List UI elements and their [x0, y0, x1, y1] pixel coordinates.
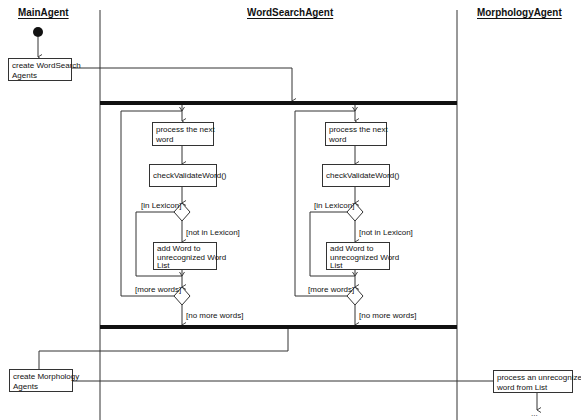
activity-create-wordsearch-agents: create WordSearch Agents: [8, 58, 72, 81]
activity-label: List: [330, 262, 386, 271]
guard-not-in-lexicon-left: [not in Lexicon]: [186, 228, 240, 238]
swimlane-title-wordsearch: WordSearchAgent: [247, 6, 333, 18]
join-bar: [100, 325, 457, 329]
activity-label: Agents: [13, 382, 69, 392]
activity-label: process an unrecognized: [497, 373, 569, 383]
activity-check-validate-word-right: checkValidateWord(): [322, 164, 390, 187]
activity-add-word-left: add Word to unrecognized Word List: [153, 242, 217, 270]
fork-bar: [100, 101, 457, 105]
activity-label: Agents: [12, 71, 68, 81]
activity-label: process the next: [156, 125, 210, 135]
activity-process-next-word-left: process the next word: [152, 122, 214, 146]
guard-more-words-right: [more words]: [308, 285, 354, 295]
activity-label: create Morphology: [13, 372, 69, 382]
guard-in-lexicon-left: [in Lexicon]: [141, 201, 181, 211]
activity-label: word: [156, 135, 210, 145]
activity-label: checkValidateWord(): [326, 171, 386, 181]
activity-label: process the next: [329, 125, 383, 135]
guard-more-words-left: [more words]: [135, 285, 181, 295]
activity-add-word-right: add Word to unrecognized Word List: [326, 242, 390, 270]
activity-create-morphology-agents: create Morphology Agents: [9, 369, 73, 392]
diagram-lines: [0, 0, 581, 420]
activity-label: word from List: [497, 383, 569, 393]
swimlane-title-main: MainAgent: [18, 6, 69, 18]
guard-not-in-lexicon-right: [not in Lexicon]: [359, 228, 413, 238]
guard-no-more-words-right: [no more words]: [359, 311, 416, 321]
activity-check-validate-word-left: checkValidateWord(): [149, 164, 217, 187]
continuation-ellipsis: ...: [531, 410, 538, 418]
activity-label: create WordSearch: [12, 61, 68, 71]
activity-process-unrecognized-word: process an unrecognized word from List: [493, 370, 573, 393]
activity-diagram: MainAgent WordSearchAgent MorphologyAgen…: [0, 0, 581, 420]
activity-label: checkValidateWord(): [153, 171, 213, 181]
activity-label: List: [157, 262, 213, 271]
activity-process-next-word-right: process the next word: [325, 122, 387, 146]
swimlane-title-morphology: MorphologyAgent: [477, 6, 562, 18]
initial-node: [33, 27, 43, 37]
guard-in-lexicon-right: [in Lexicon]: [314, 201, 354, 211]
activity-label: word: [329, 135, 383, 145]
guard-no-more-words-left: [no more words]: [186, 311, 243, 321]
